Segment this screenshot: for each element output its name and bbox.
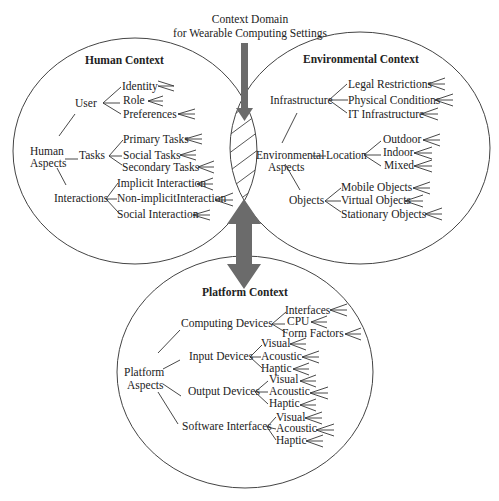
- fan-icon: [425, 208, 442, 220]
- double-arrow-icon: [227, 199, 261, 289]
- item-secondary-tasks: Secondary Tasks: [122, 161, 200, 174]
- fan-icon: [423, 134, 440, 146]
- diagram-title-line2: for Wearable Computing Settings: [173, 27, 327, 40]
- fan-icon: [306, 435, 323, 447]
- item-input-visual: Visual: [261, 337, 290, 349]
- fan-icon: [290, 338, 306, 350]
- fan-icon: [414, 160, 432, 172]
- fan-icon: [310, 387, 328, 399]
- fan-icon: [330, 304, 347, 316]
- item-stationary-objects: Stationary Objects: [341, 208, 427, 221]
- item-legal-restrictions: Legal Restrictions: [348, 78, 433, 91]
- item-cpu: CPU: [287, 315, 310, 327]
- platform-context-heading: Platform Context: [202, 286, 288, 298]
- fan-icon: [414, 147, 432, 159]
- item-preferences: Preferences: [123, 108, 177, 120]
- fan-icon: [345, 328, 361, 340]
- fan-icon: [316, 424, 334, 436]
- item-role: Role: [123, 94, 145, 106]
- item-identity: Identity: [122, 80, 158, 93]
- group-output-devices: Output Devices: [188, 385, 260, 398]
- item-mobile-objects: Mobile Objects: [341, 181, 413, 194]
- group-software-interfaces: Software Interfaces: [182, 420, 272, 432]
- item-social-tasks: Social Tasks: [123, 149, 181, 161]
- context-domain-diagram: Context Domain for Wearable Computing Se…: [0, 0, 499, 501]
- group-objects: Objects: [289, 194, 325, 207]
- environmental-context: Environmental Context Environmental Aspe…: [256, 53, 453, 221]
- human-aspects-label-1: Human: [30, 145, 64, 157]
- item-outdoor: Outdoor: [383, 133, 422, 145]
- item-primary-tasks: Primary Tasks: [123, 133, 189, 146]
- fan-icon: [302, 351, 319, 363]
- human-context-heading: Human Context: [85, 54, 164, 66]
- group-user: User: [75, 97, 97, 109]
- fan-icon: [178, 109, 195, 119]
- fan-icon: [148, 96, 163, 106]
- human-context: Human Context Human Aspects User Identit…: [30, 54, 233, 220]
- environmental-context-circle: [230, 32, 490, 264]
- item-output-acoustic: Acoustic: [269, 385, 310, 397]
- item-mixed: Mixed: [384, 159, 414, 171]
- down-arrow-icon: [236, 43, 253, 121]
- item-software-acoustic: Acoustic: [276, 422, 317, 434]
- group-computing-devices: Computing Devices: [181, 317, 273, 330]
- item-virtual-objects: Virtual Objects: [341, 194, 411, 207]
- fan-icon: [198, 161, 214, 173]
- environmental-aspects-label-2: Aspects: [268, 161, 305, 174]
- group-location: Location: [326, 149, 367, 161]
- item-output-visual: Visual: [269, 373, 298, 385]
- item-it-infrastructure: IT Infrastructure: [348, 108, 424, 120]
- item-form-factors: Form Factors: [282, 327, 344, 339]
- group-tasks: Tasks: [79, 149, 106, 161]
- group-infrastructure: Infrastructure: [270, 94, 333, 106]
- fan-icon: [413, 182, 430, 194]
- environmental-context-heading: Environmental Context: [303, 53, 419, 65]
- fan-icon: [300, 399, 316, 411]
- group-input-devices: Input Devices: [189, 350, 254, 363]
- human-aspects-label-2: Aspects: [30, 157, 67, 170]
- item-output-haptic: Haptic: [269, 397, 300, 410]
- group-interactions: Interactions: [54, 192, 109, 204]
- platform-aspects-label-1: Platform: [124, 366, 164, 378]
- item-input-acoustic: Acoustic: [261, 350, 302, 362]
- item-non-implicit-interaction: Non-implicitInteraction: [117, 192, 226, 205]
- item-software-haptic: Haptic: [276, 434, 307, 447]
- item-physical-conditions: Physical Conditions: [348, 94, 441, 107]
- environmental-aspects-label-1: Environmental: [256, 149, 324, 161]
- item-social-interaction: Social Interaction: [117, 208, 199, 220]
- platform-context: Platform Context Platform Aspects Comput…: [124, 286, 361, 447]
- item-implicit-interaction: Implicit Interaction: [117, 177, 206, 190]
- item-indoor: Indoor: [383, 146, 414, 158]
- fan-icon: [158, 81, 174, 91]
- fan-icon: [180, 150, 196, 160]
- platform-aspects-label-2: Aspects: [127, 379, 164, 392]
- diagram-title-line1: Context Domain: [212, 13, 289, 25]
